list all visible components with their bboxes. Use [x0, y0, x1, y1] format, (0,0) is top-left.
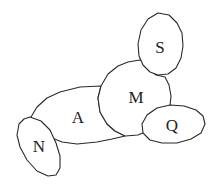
label-a: A: [72, 108, 85, 127]
region-diagram: S M A Q N: [0, 0, 223, 188]
label-n: N: [33, 137, 45, 156]
label-q: Q: [166, 116, 178, 135]
label-m: M: [128, 88, 143, 107]
label-s: S: [155, 38, 164, 57]
